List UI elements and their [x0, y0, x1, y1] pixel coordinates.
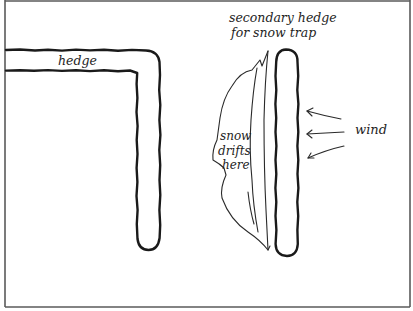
frame [5, 0, 410, 307]
snow-drift: snow drifts here [213, 51, 270, 250]
secondary-hedge-label-line2: for snow trap [230, 25, 316, 40]
secondary-hedge-outline [275, 50, 298, 257]
wind-arrow-icon [308, 146, 344, 158]
snow-trap-diagram: hedge secondary hedge for snow trap snow… [0, 0, 413, 311]
snow-drift-shade-line [250, 68, 258, 232]
wind-arrow-icon [307, 130, 344, 138]
snow-label-line1: snow [220, 129, 252, 143]
secondary-hedge-label-line1: secondary hedge [229, 10, 337, 25]
wind-arrow-icon [307, 108, 341, 119]
snow-drift-inner-line [264, 51, 268, 250]
main-hedge: hedge [6, 50, 160, 251]
snow-label-line2: drifts [218, 144, 251, 158]
wind-label: wind [355, 122, 387, 137]
hedge-label: hedge [58, 53, 97, 68]
main-hedge-outer-edge [6, 50, 160, 251]
wind-arrows: wind [307, 108, 387, 158]
snow-label-line3: here [222, 158, 250, 172]
